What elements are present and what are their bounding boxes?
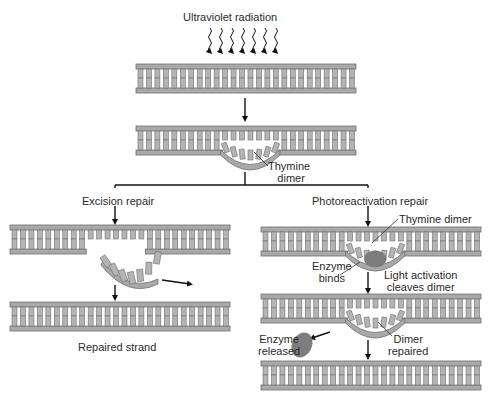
uv-ray-icon bbox=[220, 28, 223, 52]
intact-dna-top bbox=[136, 64, 356, 93]
uv-ray-icon bbox=[209, 28, 212, 52]
excised-fragment bbox=[100, 251, 161, 288]
uv-ray-icon bbox=[231, 28, 234, 52]
enzyme-released-line1: Enzyme bbox=[258, 333, 300, 345]
photo-enzyme-bound-dna bbox=[261, 227, 481, 271]
light-activation-label: Light activation cleaves dimer bbox=[384, 269, 457, 293]
thymine-dimer-label-line1: Thymine bbox=[268, 160, 310, 172]
enzyme-binds-label: Enzyme binds bbox=[312, 260, 352, 284]
light-activation-line2: cleaves dimer bbox=[384, 281, 457, 293]
excision-repaired-dna bbox=[10, 302, 230, 331]
photo-repaired-dna bbox=[261, 361, 481, 390]
photoreactivation-repair-label: Photoreactivation repair bbox=[312, 195, 428, 207]
uv-ray-icon bbox=[264, 28, 267, 52]
enzyme-binds-line2: binds bbox=[312, 272, 352, 284]
dimer-repaired-label: Dimer repaired bbox=[388, 333, 428, 357]
uv-ray-icon bbox=[242, 28, 245, 52]
uv-label: Ultraviolet radiation bbox=[183, 11, 277, 23]
uv-ray-icon bbox=[253, 28, 256, 52]
dna-repair-diagram: Ultraviolet radiation Thymine dimer Exci… bbox=[0, 0, 489, 400]
excision-cut-dna bbox=[10, 225, 230, 254]
uv-ray-icon bbox=[275, 28, 278, 52]
repaired-strand-label: Repaired strand bbox=[78, 341, 156, 353]
enzyme-released-label: Enzyme released bbox=[258, 333, 300, 357]
photo-cleaved-dna bbox=[261, 294, 481, 338]
thymine-dimer-label-line2: dimer bbox=[268, 172, 310, 184]
damaged-dna bbox=[136, 126, 356, 170]
enzyme-released-line2: released bbox=[258, 345, 300, 357]
dimer-repaired-line2: repaired bbox=[388, 345, 428, 357]
dimer-repaired-line1: Dimer bbox=[388, 333, 428, 345]
thymine-dimer-label: Thymine dimer bbox=[268, 160, 310, 184]
enzyme-binds-line1: Enzyme bbox=[312, 260, 352, 272]
excision-repair-label: Excision repair bbox=[82, 195, 154, 207]
photolyase-enzyme bbox=[364, 251, 386, 267]
thymine-dimer-right-label: Thymine dimer bbox=[399, 213, 472, 225]
light-activation-line1: Light activation bbox=[384, 269, 457, 281]
uv-wave-icons bbox=[209, 28, 278, 52]
